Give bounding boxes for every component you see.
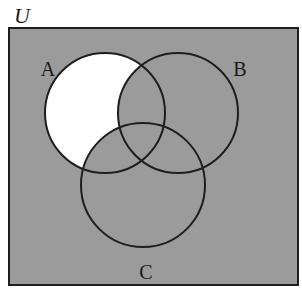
venn-diagram: U A B C xyxy=(0,0,302,303)
set-b-label: B xyxy=(233,58,246,80)
set-a-label: A xyxy=(41,58,56,80)
universe-label: U xyxy=(14,3,32,28)
set-c-label: C xyxy=(139,261,152,283)
